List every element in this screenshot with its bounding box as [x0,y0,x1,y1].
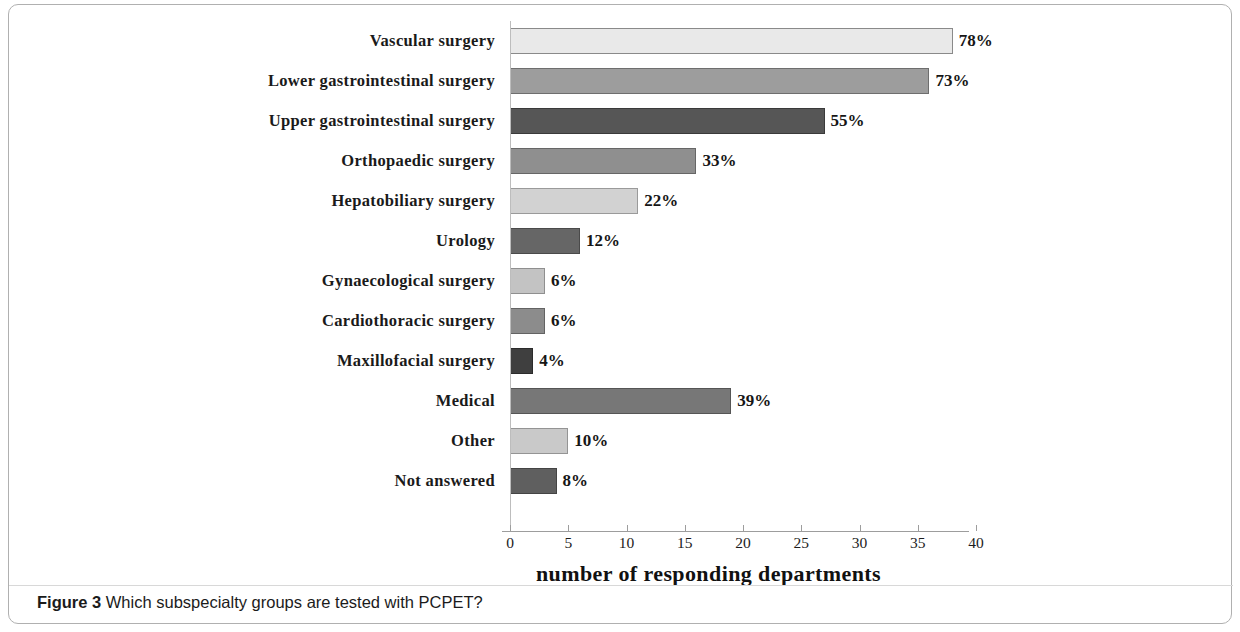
bar-row: Urology12% [9,221,1233,261]
bar [510,148,696,174]
x-axis-tick-label: 20 [735,534,751,552]
x-axis-tick [743,525,744,531]
x-axis-tick-label: 10 [619,534,635,552]
x-axis-title-label: number of responding departments [536,561,881,587]
bar-container: 78% [502,21,1202,61]
bar-row: Orthopaedic surgery33% [9,141,1233,181]
bar-container: 22% [502,181,1202,221]
bar [510,68,929,94]
category-label: Gynaecological surgery [322,261,495,301]
x-axis-tick-label: 0 [506,534,514,552]
bar-row: Vascular surgery78% [9,21,1233,61]
x-axis: 0510152025303540 [502,501,1202,561]
x-axis-tick [801,525,802,531]
bar [510,388,731,414]
x-axis-title: number of responding departments [9,561,1233,587]
bar-value-label: 6% [545,268,577,294]
bar-container: 73% [502,61,1202,101]
category-label: Not answered [394,461,495,501]
bar-row: Medical39% [9,381,1233,421]
figure-caption-prefix: Figure 3 [37,593,101,611]
bar-value-label: 55% [825,108,865,134]
bar [510,348,533,374]
bar-container: 10% [502,421,1202,461]
bar-row: Other10% [9,421,1233,461]
chart-plot-area: Vascular surgery78%Lower gastrointestina… [9,5,1233,565]
category-label: Hepatobiliary surgery [331,181,495,221]
category-label: Maxillofacial surgery [337,341,495,381]
x-axis-tick-label: 35 [910,534,926,552]
bar [510,108,825,134]
bar [510,308,545,334]
bar-rows: Vascular surgery78%Lower gastrointestina… [9,21,1233,501]
x-axis-tick-label: 25 [794,534,810,552]
bar [510,468,557,494]
figure-caption: Figure 3 Which subspecialty groups are t… [37,593,483,612]
x-axis-tick [627,525,628,531]
figure-caption-text: Which subspecialty groups are tested wit… [106,593,483,611]
bar-row: Hepatobiliary surgery22% [9,181,1233,221]
bar-container: 55% [502,101,1202,141]
category-label: Lower gastrointestinal surgery [268,61,495,101]
x-axis-tick-label: 15 [677,534,693,552]
bar-container: 6% [502,301,1202,341]
bar [510,188,638,214]
x-axis-tick [685,525,686,531]
bar-container: 8% [502,461,1202,501]
x-axis-tick [860,525,861,531]
bar [510,268,545,294]
category-label: Cardiothoracic surgery [322,301,495,341]
bar-row: Gynaecological surgery6% [9,261,1233,301]
x-axis-tick [918,525,919,531]
x-axis-tick-label: 40 [968,534,984,552]
bar-row: Lower gastrointestinal surgery73% [9,61,1233,101]
bar [510,28,953,54]
bar-container: 33% [502,141,1202,181]
bar-row: Not answered8% [9,461,1233,501]
bar-row: Upper gastrointestinal surgery55% [9,101,1233,141]
bar-value-label: 12% [580,228,620,254]
x-axis-tick [976,525,977,531]
bar [510,428,568,454]
category-label: Vascular surgery [370,21,495,61]
bar [510,228,580,254]
x-axis-tick-label: 5 [564,534,572,552]
bar-row: Maxillofacial surgery4% [9,341,1233,381]
bar-container: 4% [502,341,1202,381]
category-label: Upper gastrointestinal surgery [269,101,495,141]
bar-value-label: 4% [533,348,565,374]
bar-value-label: 6% [545,308,577,334]
figure-frame: Vascular surgery78%Lower gastrointestina… [8,4,1232,624]
x-axis-tick [510,525,511,531]
x-axis-tick [568,525,569,531]
bar-container: 12% [502,221,1202,261]
category-label: Urology [436,221,495,261]
category-label: Medical [436,381,495,421]
bar-container: 39% [502,381,1202,421]
bar-container: 6% [502,261,1202,301]
bar-value-label: 78% [953,28,993,54]
bar-value-label: 33% [696,148,736,174]
x-axis-line [502,531,969,532]
bar-value-label: 73% [929,68,969,94]
category-label: Orthopaedic surgery [341,141,495,181]
x-axis-tick-label: 30 [852,534,868,552]
bar-row: Cardiothoracic surgery6% [9,301,1233,341]
bar-value-label: 39% [731,388,771,414]
bar-value-label: 10% [568,428,608,454]
category-label: Other [451,421,495,461]
bar-value-label: 22% [638,188,678,214]
caption-divider [9,585,1233,586]
bar-value-label: 8% [557,468,589,494]
y-axis-line [510,21,511,531]
